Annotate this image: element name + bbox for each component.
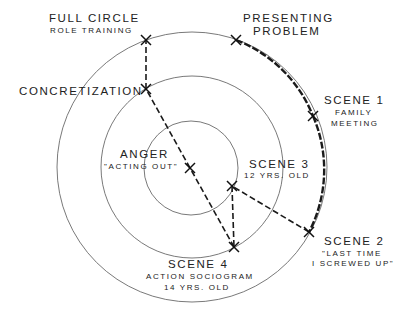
arc-scene1-to-scene2 [309,116,324,232]
arc-presenting-to-scene1 [236,40,313,116]
label-scene1-sub2: MEETING [331,119,379,128]
label-scene2-sub1: "LAST TIME [322,249,382,258]
label-scene3-sub: 12 YRS. OLD [244,171,310,180]
label-scene4-sub2: 14 YRS. OLD [164,283,230,292]
label-concretization: CONCRETIZATION [19,85,143,97]
label-scene1-sub1: FAMILY [335,108,372,117]
psychodrama-spiral-diagram: FULL CIRCLE ROLE TRAINING PRESENTING PRO… [0,0,412,314]
label-scene4: SCENE 4 [168,258,228,270]
link-scene2-to-scene3 [232,186,309,232]
link-scene4-to-anger [190,168,234,247]
label-anger-sub: "ACTING OUT" [104,162,178,171]
link-scene3-to-scene4 [232,186,234,247]
label-full-circle: FULL CIRCLE [49,12,140,24]
x-mark-icon [185,163,195,173]
label-scene1: SCENE 1 [324,94,384,106]
label-scene3: SCENE 3 [249,158,309,170]
label-scene4-sub1: ACTION SOCIOGRAM [146,272,254,281]
label-presenting: PRESENTING [243,12,334,24]
x-mark-icon [231,35,241,45]
label-scene2-sub2: I SCREWED UP" [312,259,394,268]
label-full-circle-sub: ROLE TRAINING [50,26,133,35]
x-mark-icon [308,111,318,121]
label-anger: ANGER [120,148,169,160]
x-mark-icon [304,227,314,237]
label-problem: PROBLEM [253,25,320,37]
label-scene2: SCENE 2 [324,235,384,247]
